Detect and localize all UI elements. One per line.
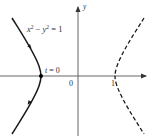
tick-label-one: 1 [111, 79, 115, 88]
hyperbola-diagram: x2 − y2 = 1 t = 0 0 1 y [0, 0, 149, 138]
equation-label: x2 − y2 = 1 [26, 24, 62, 34]
y-axis-label: y [82, 2, 87, 11]
origin-label: 0 [69, 79, 73, 88]
point-label: t = 0 [45, 66, 60, 75]
start-point [39, 74, 43, 78]
